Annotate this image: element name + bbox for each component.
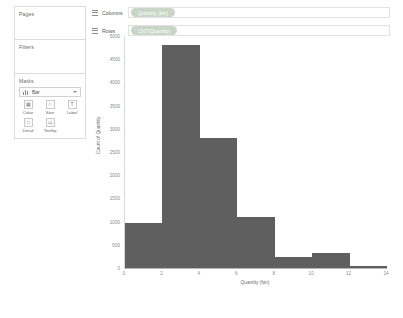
- marks-card[interactable]: Marks Bar ▦ Color ○ Size T: [14, 73, 86, 139]
- marks-button-tooltip[interactable]: ▭ Tooltip: [39, 118, 61, 133]
- y-tick-label: 5000: [110, 34, 120, 39]
- left-panel: Pages Filters Marks Bar ▦ Color ○: [14, 6, 86, 166]
- rows-shelf-field[interactable]: CNT(Quantity): [128, 25, 390, 36]
- plot-area[interactable]: [124, 36, 387, 269]
- y-tick-label: 1000: [110, 219, 120, 224]
- y-tick-label: 3000: [110, 126, 120, 131]
- y-tick-label: 4500: [110, 57, 120, 62]
- label-icon: T: [68, 100, 77, 109]
- y-tick-label: 3500: [110, 103, 120, 108]
- bar[interactable]: [275, 257, 312, 268]
- pill-quantity-bin[interactable]: Quantity (bin): [131, 8, 175, 17]
- marks-button-color[interactable]: ▦ Color: [17, 100, 39, 115]
- columns-shelf-field[interactable]: Quantity (bin): [128, 7, 390, 18]
- pages-card[interactable]: Pages: [14, 6, 86, 40]
- marks-buttons: ▦ Color ○ Size T Label ∷ Detail ▭ Tool: [15, 100, 85, 136]
- shelf-columns: Columns Quantity (bin): [92, 6, 390, 19]
- pill-cnt-quantity[interactable]: CNT(Quantity): [131, 26, 177, 35]
- marks-button-size[interactable]: ○ Size: [39, 100, 61, 115]
- tableau-worksheet: Pages Filters Marks Bar ▦ Color ○: [0, 0, 403, 318]
- x-axis-title: Quantity (bin): [124, 280, 386, 285]
- marks-button-detail[interactable]: ∷ Detail: [17, 118, 39, 133]
- x-tick-label: 2: [160, 271, 163, 276]
- bar[interactable]: [162, 45, 199, 268]
- color-icon: ▦: [24, 100, 33, 109]
- marks-button-label: Label: [67, 110, 78, 115]
- x-tick-label: 8: [272, 271, 275, 276]
- tooltip-icon: ▭: [46, 118, 55, 127]
- x-tick-label: 10: [309, 271, 314, 276]
- y-tick-label: 1500: [110, 196, 120, 201]
- y-axis-ticks: 0500100015002000250030003500400045005000: [100, 36, 122, 268]
- x-tick-label: 4: [198, 271, 201, 276]
- y-tick-label: 2000: [110, 173, 120, 178]
- y-tick-label: 2500: [110, 150, 120, 155]
- bar[interactable]: [125, 223, 162, 268]
- mark-type-dropdown[interactable]: Bar: [19, 87, 81, 97]
- bars-container: [125, 36, 387, 268]
- chevron-down-icon[interactable]: [73, 91, 77, 93]
- marks-button-label: Color: [23, 110, 34, 115]
- columns-icon: [92, 10, 98, 16]
- y-tick-label: 500: [112, 242, 120, 247]
- y-tick-label: 4000: [110, 80, 120, 85]
- marks-button-label: Detail: [22, 128, 33, 133]
- y-tick-label: 0: [117, 266, 120, 271]
- pages-card-title: Pages: [15, 7, 85, 19]
- marks-button-label: Tooltip: [44, 128, 57, 133]
- mark-type-value: Bar: [32, 89, 40, 95]
- chart-area: Count of Quantity 0500100015002000250030…: [96, 36, 388, 308]
- bar[interactable]: [237, 217, 274, 268]
- x-tick-label: 14: [383, 271, 388, 276]
- histogram: Count of Quantity 0500100015002000250030…: [96, 36, 388, 286]
- bar[interactable]: [312, 253, 349, 268]
- size-icon: ○: [46, 100, 55, 109]
- marks-button-label[interactable]: T Label: [61, 100, 83, 115]
- filters-card-title: Filters: [15, 40, 85, 52]
- x-tick-label: 0: [123, 271, 126, 276]
- detail-icon: ∷: [24, 118, 33, 127]
- marks-card-title: Marks: [15, 74, 85, 86]
- bar-chart-icon: [23, 90, 29, 95]
- shelf-label: Columns: [102, 10, 128, 16]
- bar[interactable]: [350, 266, 387, 268]
- filters-card[interactable]: Filters: [14, 39, 86, 74]
- marks-button-label: Size: [46, 110, 55, 115]
- x-tick-label: 12: [346, 271, 351, 276]
- x-tick-label: 6: [235, 271, 238, 276]
- rows-icon: [92, 28, 98, 34]
- bar[interactable]: [200, 138, 237, 268]
